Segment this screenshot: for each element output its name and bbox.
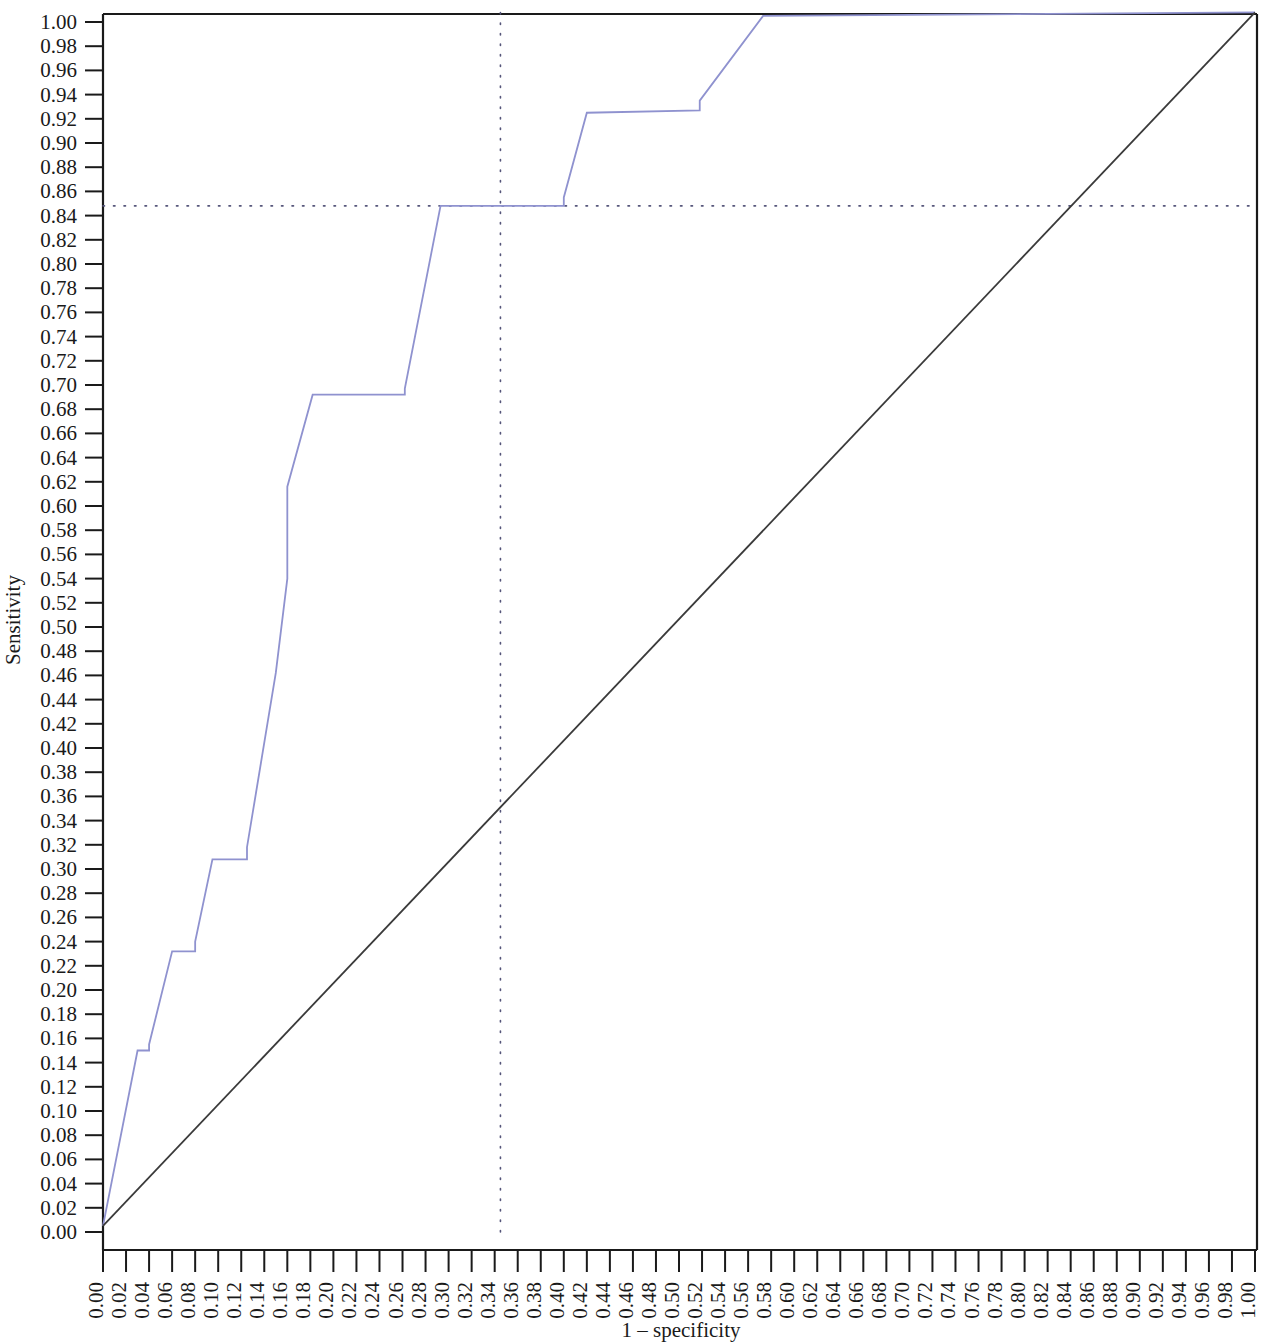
y-axis-tick-label: 0.34	[40, 809, 77, 833]
y-axis-tick-label: 0.06	[40, 1147, 77, 1171]
y-axis-tick-label: 0.52	[40, 591, 77, 615]
x-axis-tick-label: 0.68	[867, 1282, 891, 1319]
x-axis-tick-label: 0.26	[384, 1282, 408, 1319]
x-axis-tick-label: 0.66	[844, 1282, 868, 1319]
y-axis-tick-label: 0.16	[40, 1026, 77, 1050]
x-axis-tick-label: 0.10	[199, 1282, 223, 1319]
y-axis-tick-label: 0.56	[40, 542, 77, 566]
x-axis-tick-label: 0.22	[337, 1282, 361, 1319]
x-axis-tick-label: 0.64	[821, 1282, 845, 1319]
y-axis-tick-label: 0.66	[40, 421, 77, 445]
y-axis-tick-label: 0.46	[40, 663, 77, 687]
y-axis-tick-label: 0.00	[40, 1220, 77, 1244]
x-axis-tick-label: 0.24	[360, 1282, 384, 1319]
y-axis-tick-label: 0.18	[40, 1002, 77, 1026]
y-axis-tick-label: 0.58	[40, 518, 77, 542]
axis-ticks	[85, 22, 1255, 1272]
y-axis-tick-label: 0.24	[40, 930, 77, 954]
y-axis-tick-label: 0.32	[40, 833, 77, 857]
y-axis-tick-label: 0.78	[40, 276, 77, 300]
x-axis-tick-label: 0.72	[913, 1282, 937, 1319]
x-axis-tick-label: 0.58	[752, 1282, 776, 1319]
y-axis-tick-label: 0.42	[40, 712, 77, 736]
reference-diagonal	[103, 12, 1255, 1226]
x-axis-tick-label: 0.00	[84, 1282, 108, 1319]
x-axis-tick-label: 0.32	[453, 1282, 477, 1319]
y-axis-tick-label: 0.54	[40, 567, 77, 591]
y-axis-tick-label: 0.94	[40, 83, 77, 107]
y-axis-tick-label: 0.44	[40, 688, 77, 712]
x-axis-tick-label: 0.56	[729, 1282, 753, 1319]
x-axis-tick-label: 0.94	[1167, 1282, 1191, 1319]
x-axis-tick-label: 1.00	[1236, 1282, 1260, 1319]
y-axis-tick-label: 0.98	[40, 34, 77, 58]
x-axis-title: 1 – specificity	[622, 1318, 741, 1342]
x-axis-tick-label: 0.18	[291, 1282, 315, 1319]
x-axis-tick-label: 0.14	[245, 1282, 269, 1319]
x-axis-tick-label: 0.98	[1213, 1282, 1237, 1319]
y-axis-tick-label: 0.96	[40, 58, 77, 82]
x-axis-tick-label: 0.84	[1052, 1282, 1076, 1319]
y-axis-tick-label: 0.20	[40, 978, 77, 1002]
x-axis-tick-label: 0.62	[798, 1282, 822, 1319]
x-axis-tick-label: 0.02	[107, 1282, 131, 1319]
y-axis-tick-label: 0.76	[40, 300, 77, 324]
x-axis-tick-label: 0.04	[130, 1282, 154, 1319]
y-axis-tick-label: 0.90	[40, 131, 77, 155]
x-axis-tick-label: 0.92	[1144, 1282, 1168, 1319]
x-axis-tick-label: 0.44	[591, 1282, 615, 1319]
y-axis-tick-labels: 0.000.020.040.060.080.100.120.140.160.18…	[40, 10, 77, 1244]
y-axis-tick-label: 0.80	[40, 252, 77, 276]
x-axis-tick-label: 0.96	[1190, 1282, 1214, 1319]
y-axis-tick-label: 0.14	[40, 1051, 77, 1075]
y-axis-tick-label: 0.40	[40, 736, 77, 760]
x-axis-tick-label: 0.40	[545, 1282, 569, 1319]
y-axis-tick-label: 1.00	[40, 10, 77, 34]
x-axis-tick-label: 0.12	[222, 1282, 246, 1319]
y-axis-tick-label: 0.84	[40, 204, 77, 228]
x-axis-tick-label: 0.86	[1075, 1282, 1099, 1319]
x-axis-tick-label: 0.34	[476, 1282, 500, 1319]
x-axis-tick-label: 0.52	[683, 1282, 707, 1319]
y-axis-tick-label: 0.04	[40, 1172, 77, 1196]
y-axis-tick-label: 0.38	[40, 760, 77, 784]
x-axis-tick-label: 0.50	[660, 1282, 684, 1319]
x-axis-tick-labels: 0.000.020.040.060.080.100.120.140.160.18…	[84, 1282, 1260, 1319]
y-axis-tick-label: 0.88	[40, 155, 77, 179]
x-axis-tick-label: 0.08	[176, 1282, 200, 1319]
y-axis-tick-label: 0.36	[40, 784, 77, 808]
x-axis-tick-label: 0.76	[960, 1282, 984, 1319]
y-axis-tick-label: 0.70	[40, 373, 77, 397]
y-axis-tick-label: 0.30	[40, 857, 77, 881]
x-axis-tick-label: 0.78	[983, 1282, 1007, 1319]
x-axis-tick-label: 0.48	[637, 1282, 661, 1319]
x-axis-tick-label: 0.06	[153, 1282, 177, 1319]
y-axis-tick-label: 0.60	[40, 494, 77, 518]
x-axis-tick-label: 0.82	[1029, 1282, 1053, 1319]
y-axis-tick-label: 0.10	[40, 1099, 77, 1123]
x-axis-tick-label: 0.70	[890, 1282, 914, 1319]
y-axis-tick-label: 0.74	[40, 325, 77, 349]
y-axis-tick-label: 0.50	[40, 615, 77, 639]
x-axis-tick-label: 0.36	[499, 1282, 523, 1319]
y-axis-tick-label: 0.08	[40, 1123, 77, 1147]
x-axis-tick-label: 0.20	[314, 1282, 338, 1319]
y-axis-title: Sensitivity	[1, 575, 25, 665]
y-axis-tick-label: 0.12	[40, 1075, 77, 1099]
y-axis-tick-label: 0.68	[40, 397, 77, 421]
roc-plot-canvas: 0.000.020.040.060.080.100.120.140.160.18…	[0, 0, 1274, 1344]
y-axis-tick-label: 0.48	[40, 639, 77, 663]
x-axis-tick-label: 0.90	[1121, 1282, 1145, 1319]
x-axis-tick-label: 0.28	[407, 1282, 431, 1319]
y-axis-tick-label: 0.82	[40, 228, 77, 252]
y-axis-tick-label: 0.62	[40, 470, 77, 494]
x-axis-tick-label: 0.80	[1006, 1282, 1030, 1319]
x-axis-tick-label: 0.54	[706, 1282, 730, 1319]
y-axis-tick-label: 0.22	[40, 954, 77, 978]
x-axis-tick-label: 0.88	[1098, 1282, 1122, 1319]
y-axis-tick-label: 0.26	[40, 905, 77, 929]
y-axis-tick-label: 0.28	[40, 881, 77, 905]
x-axis-tick-label: 0.38	[522, 1282, 546, 1319]
y-axis-tick-label: 0.72	[40, 349, 77, 373]
y-axis-tick-label: 0.02	[40, 1196, 77, 1220]
